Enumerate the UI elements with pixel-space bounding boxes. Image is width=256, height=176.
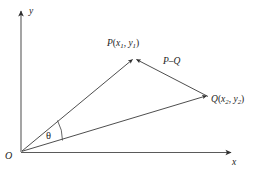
x-axis-label: x bbox=[232, 158, 236, 168]
point-q-label: Q(x2, y2) bbox=[211, 95, 244, 106]
point-p-close-paren: ) bbox=[136, 38, 139, 48]
difference-vector-label: P–Q bbox=[163, 57, 180, 67]
point-q-name: Q bbox=[211, 94, 218, 104]
point-p-label: P(x1, y1) bbox=[107, 39, 139, 50]
angle-arc bbox=[58, 121, 63, 141]
point-q-close-paren: ) bbox=[241, 94, 244, 104]
vector-op bbox=[22, 60, 133, 152]
vector-diagram-figure: y x O P(x1, y1) Q(x2, y2) P–Q θ bbox=[0, 0, 256, 176]
origin-label: O bbox=[5, 151, 12, 161]
y-axis-label: y bbox=[29, 7, 33, 17]
vector-oq bbox=[22, 96, 207, 152]
angle-theta-label: θ bbox=[46, 131, 51, 142]
diagram-canvas bbox=[0, 0, 256, 176]
